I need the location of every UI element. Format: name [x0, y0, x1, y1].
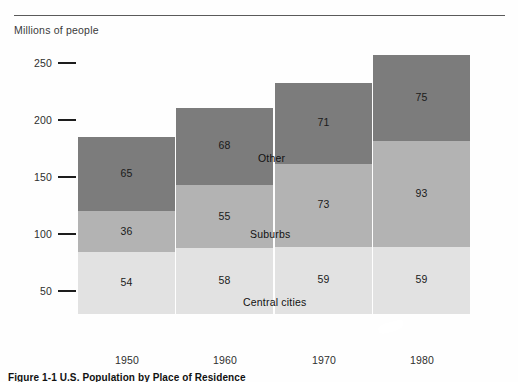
bar-segment-1980-central-cities: 59: [373, 247, 470, 314]
bar-value-label: 75: [373, 91, 470, 103]
bar-segment-1980-other: 75: [373, 55, 470, 141]
bar-1970: 597371: [275, 83, 372, 314]
figure-caption: Figure 1-1 U.S. Population by Place of R…: [8, 372, 246, 382]
bar-value-label: 59: [373, 273, 470, 285]
bar-value-label: 93: [373, 187, 470, 199]
bar-segment-1970-other: 71: [275, 83, 372, 164]
x-axis-label-1960: 1960: [176, 354, 274, 366]
bar-segment-1950-suburbs: 36: [78, 211, 175, 252]
bar-value-label: 73: [275, 198, 372, 210]
bar-value-label: 55: [176, 210, 273, 222]
bar-segment-1960-other: 68: [176, 108, 273, 186]
bar-1980: 599375: [373, 55, 470, 314]
bar-value-label: 65: [78, 167, 175, 179]
bar-value-label: 36: [78, 225, 175, 237]
series-label-other: Other: [258, 152, 285, 164]
bar-value-label: 68: [176, 139, 273, 151]
bar-1960: 585568: [176, 108, 273, 314]
bar-value-label: 71: [275, 116, 372, 128]
bar-segment-1980-suburbs: 93: [373, 141, 470, 247]
x-axis-label-1970: 1970: [275, 354, 373, 366]
bar-value-label: 59: [275, 273, 372, 285]
bar-value-label: 58: [176, 274, 273, 286]
series-label-central-cities: Central cities: [243, 296, 307, 308]
bar-value-label: 54: [78, 276, 175, 288]
bar-1950: 543665: [78, 137, 175, 314]
bar-segment-1950-central-cities: 54: [78, 252, 175, 314]
x-axis-label-1980: 1980: [373, 354, 471, 366]
figure-population-by-residence: Millions of people 50100150200250 543665…: [0, 0, 518, 382]
bar-segment-1950-other: 65: [78, 137, 175, 211]
series-label-suburbs: Suburbs: [250, 228, 291, 240]
x-axis-label-1950: 1950: [78, 354, 176, 366]
